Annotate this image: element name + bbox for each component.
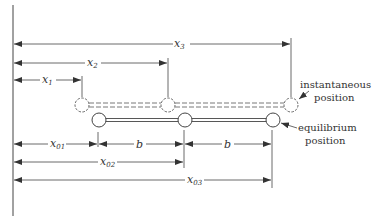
dimension-x03: x03 — [14, 173, 271, 187]
svg-text:position: position — [314, 92, 355, 103]
dimension-x02: x02 — [14, 155, 183, 169]
dimension-x1: x1 — [14, 73, 81, 87]
label-x02: x02 — [100, 155, 116, 169]
dimension-x2: x2 — [14, 56, 167, 70]
svg-text:instantaneous: instantaneous — [300, 79, 371, 90]
label-x3: x3 — [174, 37, 185, 51]
atom-2-equilibrium — [178, 113, 192, 127]
equilibrium-molecule — [92, 113, 280, 127]
label-x01: x01 — [50, 137, 65, 151]
dimension-x01: x01 — [14, 137, 97, 151]
atom-1-equilibrium — [92, 113, 106, 127]
label-x2: x2 — [87, 56, 98, 70]
svg-text:position: position — [305, 135, 346, 146]
atom-3-instantaneous — [284, 98, 298, 112]
molecule-displacement-diagram: x3 x2 x1 x01 — [0, 0, 373, 223]
label-b-1: b — [136, 138, 143, 151]
label-x1: x1 — [42, 73, 53, 87]
annotation-instantaneous-position: instantaneous position — [299, 79, 371, 103]
atom-1-instantaneous — [75, 98, 89, 112]
dimension-x3: x3 — [14, 37, 290, 51]
label-x03: x03 — [187, 173, 203, 187]
annotation-equilibrium-position: equilibrium position — [281, 122, 357, 146]
svg-text:equilibrium: equilibrium — [298, 122, 357, 133]
atom-3-equilibrium — [266, 113, 280, 127]
dimension-b-1: b — [99, 138, 183, 151]
label-b-2: b — [224, 138, 231, 151]
instantaneous-molecule — [75, 98, 298, 112]
atom-2-instantaneous — [161, 98, 175, 112]
dimension-b-2: b — [185, 138, 271, 151]
